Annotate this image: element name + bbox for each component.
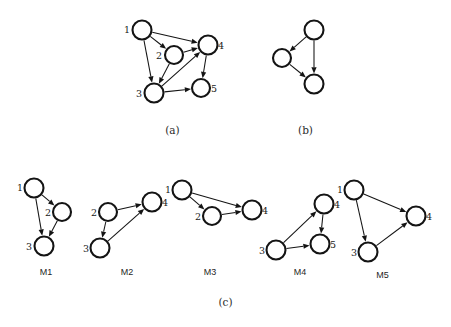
graph-panel-a: 12435 (110, 8, 235, 118)
node-label: 3 (351, 247, 357, 258)
node-1: 1 (337, 181, 364, 200)
edge-4-to-5 (201, 55, 206, 78)
node-l (273, 49, 291, 67)
node-label: 1 (17, 182, 23, 193)
node-2: 2 (45, 203, 71, 221)
node-label: 1 (165, 184, 171, 195)
edge-t-to-b (311, 41, 316, 74)
caption-motif-m3: M3 (155, 267, 265, 277)
edge-1-to-2 (190, 197, 205, 210)
node-label: 5 (211, 83, 217, 94)
graph-motif-m5: 143 (332, 172, 437, 272)
node-4: 4 (407, 207, 433, 226)
edge-2-to-4 (222, 210, 242, 215)
node-4: 4 (199, 36, 225, 55)
figure-root: 12435 (a) (b) 123 M1 243 M2 124 M3 453 M… (0, 0, 451, 327)
edge-3-to-5 (286, 244, 309, 249)
node-3: 3 (83, 239, 110, 258)
graph-motif-m1: 123 (6, 170, 86, 265)
node-label: 2 (45, 207, 51, 218)
node-t (305, 21, 324, 40)
caption-motif-m1: M1 (6, 267, 86, 277)
node-3: 3 (26, 237, 54, 256)
edge-4-to-5 (319, 214, 324, 233)
node-label: 2 (195, 211, 201, 222)
node-3: 3 (259, 241, 286, 260)
node-2: 2 (156, 46, 183, 64)
node-label: 1 (337, 184, 343, 195)
node-1: 1 (165, 181, 192, 200)
node-label: 4 (218, 40, 224, 51)
node-label: 1 (124, 24, 130, 35)
caption-panel-c: (c) (0, 296, 451, 308)
edge-2-to-4 (118, 203, 142, 210)
node-label: 3 (259, 245, 265, 256)
edge-3-to-4 (376, 222, 407, 245)
edge-3-to-5 (164, 87, 191, 92)
edge-1-to-3 (144, 40, 153, 82)
node-2: 2 (195, 207, 221, 225)
caption-panel-b: (b) (258, 124, 353, 136)
node-1: 1 (124, 21, 152, 40)
edge-l-to-b (290, 64, 306, 77)
node-3: 3 (136, 84, 164, 103)
node-label: 2 (91, 207, 97, 218)
edge-1-to-4 (364, 194, 407, 212)
edge-1-to-3 (36, 198, 44, 235)
node-label: 4 (426, 211, 432, 222)
edge-t-to-l (290, 37, 307, 52)
graph-motif-m3: 124 (160, 172, 270, 267)
edge-1-to-2 (150, 36, 166, 48)
node-2: 2 (91, 203, 117, 221)
edge-1-to-4 (152, 32, 198, 44)
node-label: 3 (26, 241, 32, 252)
node-label: 3 (83, 243, 89, 254)
caption-motif-m5: M5 (330, 270, 435, 280)
graph-motif-m2: 243 (82, 180, 172, 270)
caption-panel-a: (a) (110, 124, 235, 136)
node-5: 5 (192, 79, 217, 97)
edge-1-to-3 (356, 200, 367, 242)
graph-panel-b (258, 8, 353, 118)
edge-1-to-2 (42, 195, 54, 206)
node-b (305, 75, 324, 94)
edge-2-to-4 (184, 47, 198, 52)
edge-2-to-3 (101, 222, 106, 238)
node-1: 1 (17, 179, 44, 198)
node-label: 2 (156, 50, 162, 61)
node-3: 3 (351, 243, 378, 262)
node-label: 3 (136, 88, 142, 99)
edge-2-to-3 (49, 221, 57, 237)
